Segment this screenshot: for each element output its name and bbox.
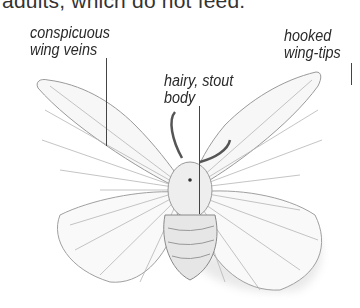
label-wing-veins: conspicuous wing veins: [30, 24, 110, 58]
label-line: hairy, stout: [164, 72, 233, 89]
label-line: hooked: [284, 27, 341, 44]
leader-line-wing-veins: [106, 58, 107, 146]
leader-line-wing-tips: [351, 63, 352, 85]
label-body: hairy, stout body: [164, 72, 233, 106]
label-line: wing-tips: [284, 44, 341, 61]
label-wing-tips: hooked wing-tips: [284, 27, 341, 61]
label-line: body: [164, 89, 233, 106]
label-line: conspicuous: [30, 24, 110, 41]
left-forewing: [37, 79, 182, 188]
label-line: wing veins: [30, 41, 110, 58]
leader-line-body: [199, 106, 200, 214]
left-hindwing: [57, 192, 178, 282]
left-antenna: [171, 112, 182, 158]
moth-thorax: [168, 162, 212, 218]
